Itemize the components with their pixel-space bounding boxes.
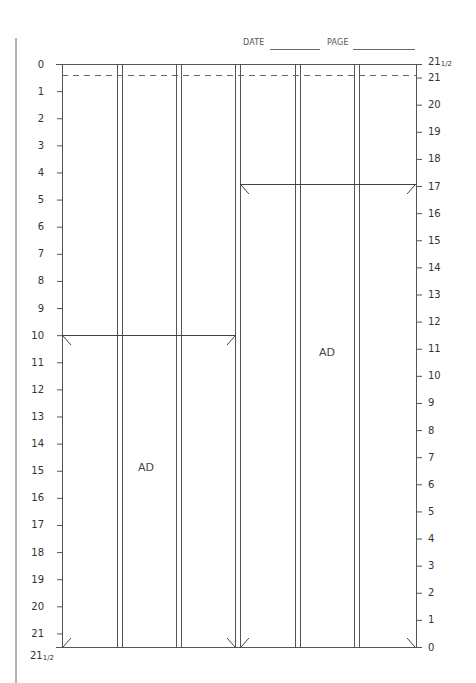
left-scale-ticks xyxy=(57,92,62,634)
right-scale-label: 6 xyxy=(428,480,434,490)
left-scale-label: 14 xyxy=(20,439,44,449)
left-scale-label: 10 xyxy=(20,331,44,341)
left-scale-label: 17 xyxy=(20,520,44,530)
right-scale-label: 4 xyxy=(428,534,434,544)
ad-label-left: AD xyxy=(138,461,154,474)
right-scale-label: 19 xyxy=(428,127,441,137)
right-scale-label: 13 xyxy=(428,290,441,300)
left-scale-label: 5 xyxy=(20,195,44,205)
left-scale-label: 1 xyxy=(20,87,44,97)
right-scale-top-label: 211/2 xyxy=(428,57,452,68)
page-field-line[interactable] xyxy=(353,49,415,50)
left-scale-label: 0 xyxy=(20,60,44,70)
left-scale-bottom-label: 211/2 xyxy=(30,651,54,662)
right-scale-label: 16 xyxy=(428,209,441,219)
right-scale-label: 5 xyxy=(428,507,434,517)
page-dummy-sheet: DATE PAGE 012345678910111213141516171819… xyxy=(0,0,476,683)
right-scale-label: 7 xyxy=(428,453,434,463)
right-scale-label: 0 xyxy=(428,643,434,653)
left-scale-label: 2 xyxy=(20,114,44,124)
ad-block-right xyxy=(240,185,416,648)
right-scale-label: 20 xyxy=(428,100,441,110)
date-field-line[interactable] xyxy=(270,49,320,50)
left-scale-label: 21 xyxy=(20,629,44,639)
left-scale-label: 8 xyxy=(20,276,44,286)
date-label: DATE xyxy=(243,38,265,47)
left-scale-label: 9 xyxy=(20,304,44,314)
right-scale-label: 9 xyxy=(428,398,434,408)
ad-block-left xyxy=(62,336,236,648)
right-scale-label: 15 xyxy=(428,236,441,246)
left-scale-label: 11 xyxy=(20,358,44,368)
right-scale-label: 1 xyxy=(428,615,434,625)
ad-label-right: AD xyxy=(319,346,335,359)
right-scale-label: 2 xyxy=(428,588,434,598)
right-scale-label: 12 xyxy=(428,317,441,327)
left-scale-label: 18 xyxy=(20,548,44,558)
right-scale-label: 18 xyxy=(428,154,441,164)
right-scale-ticks xyxy=(416,78,422,620)
right-scale-label: 11 xyxy=(428,344,441,354)
left-scale-label: 19 xyxy=(20,575,44,585)
page-label: PAGE xyxy=(327,38,349,47)
right-scale-label: 10 xyxy=(428,371,441,381)
left-scale-label: 7 xyxy=(20,249,44,259)
right-scale-label: 17 xyxy=(428,182,441,192)
left-scale-label: 13 xyxy=(20,412,44,422)
right-scale-label: 3 xyxy=(428,561,434,571)
left-scale-label: 12 xyxy=(20,385,44,395)
left-scale-label: 6 xyxy=(20,222,44,232)
right-scale-label: 14 xyxy=(428,263,441,273)
left-scale-label: 3 xyxy=(20,141,44,151)
left-scale-label: 20 xyxy=(20,602,44,612)
right-scale-label: 21 xyxy=(428,73,441,83)
left-scale-label: 4 xyxy=(20,168,44,178)
right-scale-label: 8 xyxy=(428,426,434,436)
left-scale-label: 15 xyxy=(20,466,44,476)
left-scale-label: 16 xyxy=(20,493,44,503)
layout-grid xyxy=(0,0,476,683)
